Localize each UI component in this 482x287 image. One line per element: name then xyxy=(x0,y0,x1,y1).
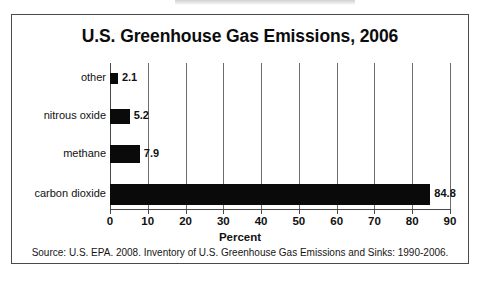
x-tick-label-50: 50 xyxy=(284,215,314,227)
category-label-nitrous-oxide: nitrous oxide xyxy=(44,109,106,121)
x-tick-label-40: 40 xyxy=(246,215,276,227)
plot-area: 2.15.27.984.8 xyxy=(110,63,450,209)
x-tick-20 xyxy=(186,209,187,214)
x-tick-label-20: 20 xyxy=(171,215,201,227)
x-tick-70 xyxy=(374,209,375,214)
bar-nitrous-oxide xyxy=(110,109,130,124)
x-tick-0 xyxy=(110,209,111,214)
category-label-methane: methane xyxy=(63,147,106,159)
category-label-carbon-dioxide: carbon dioxide xyxy=(34,187,106,199)
x-tick-40 xyxy=(261,209,262,214)
x-tick-60 xyxy=(337,209,338,214)
x-axis-title: Percent xyxy=(12,231,468,243)
x-tick-label-90: 90 xyxy=(435,215,465,227)
x-tick-10 xyxy=(148,209,149,214)
bar-carbon-dioxide xyxy=(110,184,430,205)
x-tick-90 xyxy=(450,209,451,214)
scan-artifact-top xyxy=(175,0,355,5)
x-tick-label-60: 60 xyxy=(322,215,352,227)
x-tick-80 xyxy=(412,209,413,214)
x-tick-50 xyxy=(299,209,300,214)
x-tick-label-10: 10 xyxy=(133,215,163,227)
chart-figure-frame: U.S. Greenhouse Gas Emissions, 2006 othe… xyxy=(11,14,469,264)
source-note: Source: U.S. EPA. 2008. Inventory of U.S… xyxy=(12,247,468,258)
category-label-other: other xyxy=(81,71,106,83)
bar-value-nitrous-oxide: 5.2 xyxy=(134,109,149,121)
x-tick-label-30: 30 xyxy=(208,215,238,227)
bar-value-methane: 7.9 xyxy=(144,147,159,159)
bar-methane xyxy=(110,145,140,163)
x-tick-label-70: 70 xyxy=(359,215,389,227)
category-axis-labels: othernitrous oxidemethanecarbon dioxide xyxy=(12,63,106,209)
chart-title: U.S. Greenhouse Gas Emissions, 2006 xyxy=(12,26,468,47)
x-tick-label-80: 80 xyxy=(397,215,427,227)
bar-value-carbon-dioxide: 84.8 xyxy=(434,187,455,199)
x-tick-label-0: 0 xyxy=(95,215,125,227)
x-tick-30 xyxy=(223,209,224,214)
bar-other xyxy=(110,73,118,84)
bar-value-other: 2.1 xyxy=(122,71,137,83)
x-axis-baseline xyxy=(110,209,451,210)
scan-artifact-bottom xyxy=(0,268,482,287)
